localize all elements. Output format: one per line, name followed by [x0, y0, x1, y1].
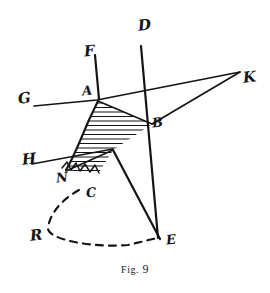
label-E: E: [165, 233, 176, 247]
label-D: D: [137, 17, 152, 33]
label-G: G: [17, 90, 31, 106]
caption-number: 9: [142, 262, 149, 276]
caption-prefix: Fig.: [121, 264, 139, 275]
label-H: H: [21, 151, 37, 167]
label-A: A: [81, 84, 92, 98]
figure-caption: Fig. 9: [0, 262, 270, 277]
label-K: K: [242, 69, 257, 85]
label-N: N: [55, 170, 68, 184]
figure-drawing: [0, 0, 270, 293]
label-B: B: [151, 115, 163, 129]
label-F: F: [83, 43, 95, 59]
figure-container: G F A D K B H N C R E Fig. 9: [0, 0, 270, 293]
label-C: C: [85, 185, 97, 199]
figure-background: [0, 0, 270, 293]
label-R: R: [29, 227, 43, 243]
